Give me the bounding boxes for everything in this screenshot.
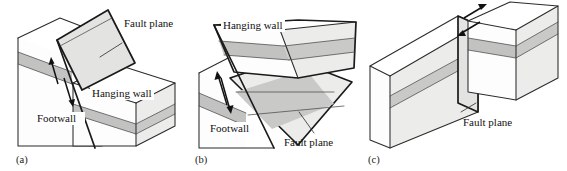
fault-plane-label-c: Fault plane (463, 116, 512, 128)
panel-caption-b: (b) (195, 154, 208, 166)
panel-caption-a: (a) (16, 154, 28, 166)
footwall-label-a: Footwall (37, 112, 76, 124)
panel-b-reverse-fault: Hanging wall Footwall Fault plane (b) (186, 0, 372, 171)
fault-plane-label-b: Fault plane (284, 136, 333, 148)
near-block-left-face-c (370, 66, 390, 148)
hanging-wall-label-a: Hanging wall (92, 87, 152, 99)
far-block-front-face-c (468, 21, 516, 100)
fault-types-figure: Fault plane Hanging wall Footwall (a) (0, 0, 567, 171)
panel-a-normal-fault: Fault plane Hanging wall Footwall (a) (0, 0, 190, 171)
panel-c-strike-slip-fault: Fault plane (c) (368, 0, 567, 171)
fault-plane-label-a: Fault plane (124, 17, 173, 29)
hanging-wall-label-b: Hanging wall (223, 19, 283, 31)
far-block-c (468, 2, 558, 100)
panel-caption-c: (c) (368, 154, 380, 166)
footwall-label-b: Footwall (210, 122, 249, 134)
